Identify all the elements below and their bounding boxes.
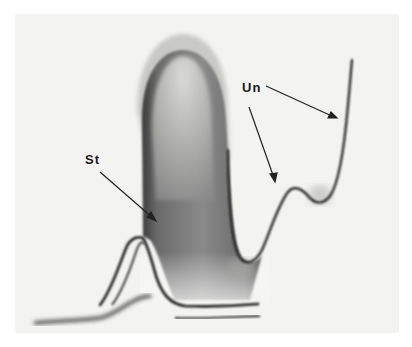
figure: St Un	[0, 0, 412, 347]
label-st: St	[85, 152, 100, 167]
un-arrow-upper	[266, 86, 337, 118]
un-arrow-lower	[249, 107, 277, 182]
baseline-right	[175, 316, 260, 318]
profile-graphic	[0, 0, 412, 347]
label-un: Un	[242, 80, 261, 95]
baseline-trail	[35, 296, 150, 323]
column-core	[152, 56, 214, 200]
